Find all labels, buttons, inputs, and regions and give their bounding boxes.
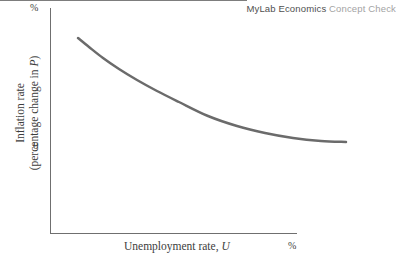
phillips-curve-line xyxy=(78,38,346,142)
x-axis-title: Unemployment rate, U xyxy=(124,240,230,252)
y-axis-title-line1: Inflation rate xyxy=(13,43,27,183)
y-axis-title-line2-suffix: ) xyxy=(28,56,40,60)
x-axis-unit-label: % xyxy=(288,240,296,251)
y-axis-unit-label: % xyxy=(30,2,38,13)
y-axis-title-line2-variable: P xyxy=(28,60,40,67)
y-axis-title-line2-prefix: (percentage change in xyxy=(28,69,40,170)
x-axis-title-text: Unemployment rate, xyxy=(124,240,219,252)
phillips-curve-plot xyxy=(0,0,401,264)
y-axis-title: Inflation rate (percentage change in P) xyxy=(13,43,41,183)
plot-area: % 0 % Unemployment rate, U Inflation rat… xyxy=(0,0,401,264)
y-axis-title-line2: (percentage change in P) xyxy=(27,43,41,183)
x-axis-title-variable: U xyxy=(221,240,229,252)
phillips-curve-figure: MyLab Economics Concept Check % 0 % Unem… xyxy=(0,0,401,264)
